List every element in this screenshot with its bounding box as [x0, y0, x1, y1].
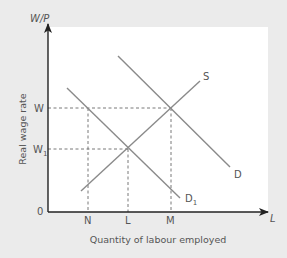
curve-label-d1: D1 — [185, 193, 197, 207]
tick-w1-main: W — [33, 144, 43, 155]
y-axis-symbol: W/P — [30, 13, 50, 24]
origin-label: 0 — [37, 206, 43, 217]
x-axis-title: Quantity of labour employed — [90, 234, 227, 245]
tick-w: W — [34, 103, 44, 114]
x-axis-symbol: L — [270, 213, 276, 224]
labour-market-diagram: W/P L 0 W W1 N L M S D D1 — [0, 0, 287, 258]
tick-l: L — [125, 215, 131, 226]
tick-m: M — [166, 215, 175, 226]
y-axis-title: Real wage rate — [17, 93, 28, 164]
guide-lines — [48, 108, 171, 212]
tick-n: N — [84, 215, 91, 226]
curve-label-d1-sub: 1 — [193, 199, 197, 207]
curve-label-s: S — [203, 71, 209, 82]
demand-curve-d — [118, 56, 230, 167]
supply-curve-s — [81, 81, 200, 191]
tick-w1-sub: 1 — [43, 150, 47, 158]
curve-label-d: D — [234, 169, 242, 180]
demand-curve-d1 — [67, 88, 180, 198]
tick-w1: W1 — [33, 144, 47, 158]
axes — [48, 24, 268, 212]
